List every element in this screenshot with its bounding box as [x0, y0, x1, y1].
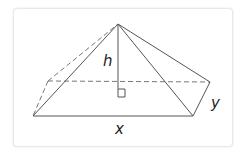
label-width: y [210, 94, 221, 112]
visible-edges [33, 24, 210, 116]
hidden-edge-left-base [33, 81, 48, 116]
hidden-edges [33, 24, 210, 116]
edge-apex-front-right [118, 24, 193, 116]
label-height: h [103, 52, 113, 70]
edge-apex-front-left [33, 24, 118, 116]
hidden-edge-back-base [48, 81, 210, 82]
pyramid-diagram: h x y [0, 0, 242, 152]
edge-apex-back-right [118, 24, 210, 82]
label-length: x [114, 120, 124, 138]
right-angle-marker [118, 89, 125, 97]
edge-right-base [193, 82, 210, 116]
